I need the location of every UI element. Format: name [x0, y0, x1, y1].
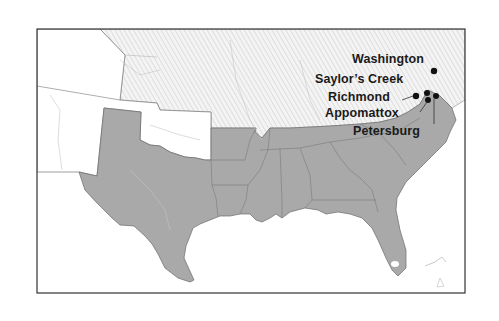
lake-okeechobee	[391, 261, 399, 267]
label-saylors-creek: Saylor’s Creek	[315, 72, 403, 86]
marker-appomattox[interactable]	[425, 97, 431, 103]
label-appomattox: Appomattox	[325, 106, 399, 120]
label-richmond: Richmond	[328, 90, 390, 104]
marker-washington[interactable]	[431, 68, 437, 74]
marker-richmond[interactable]	[413, 93, 419, 99]
marker-petersburg[interactable]	[433, 93, 439, 99]
map	[0, 0, 499, 321]
marker-saylors-creek[interactable]	[424, 90, 430, 96]
label-washington: Washington	[352, 52, 424, 66]
label-petersburg: Petersburg	[353, 124, 420, 138]
